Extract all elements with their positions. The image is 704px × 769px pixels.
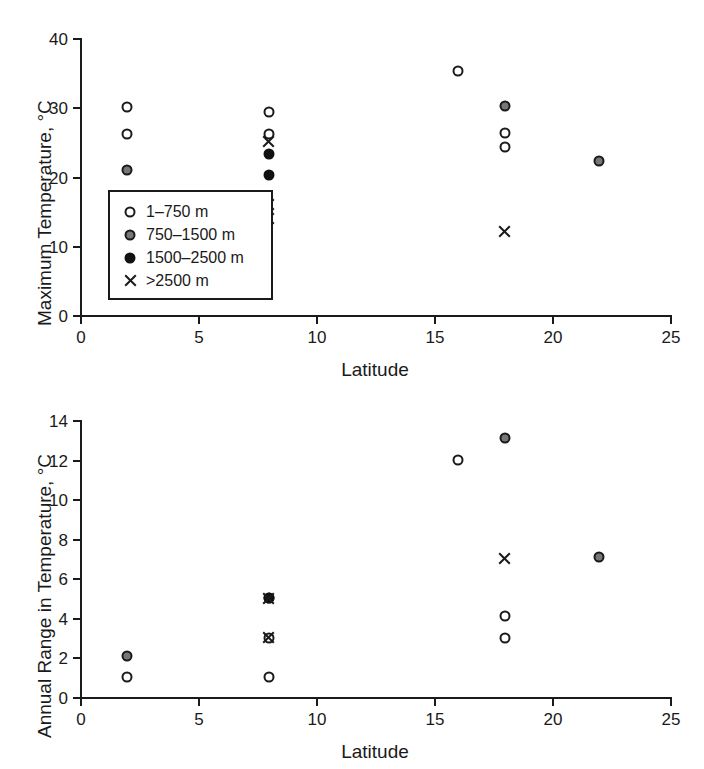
marker-open-circle: [263, 632, 274, 643]
marker-open-circle: [499, 127, 510, 138]
y-axis-tick: [73, 539, 80, 541]
y-axis-line: [80, 38, 82, 315]
x-axis-line: [80, 315, 672, 317]
legend-swatch: [120, 202, 140, 222]
x-axis-tick-label: 20: [544, 711, 563, 728]
y-axis-tick: [73, 107, 80, 109]
marker-gray-circle: [499, 100, 510, 111]
x-axis-tick: [316, 699, 318, 706]
y-axis-tick: [73, 315, 80, 317]
x-axis-tick: [80, 317, 82, 324]
x-axis-tick-label: 10: [308, 711, 327, 728]
y-axis-tick: [73, 657, 80, 659]
y-axis-tick-label: 14: [22, 413, 68, 430]
x-axis-tick-label: 5: [194, 711, 203, 728]
marker-open-circle: [452, 454, 463, 465]
x-axis-tick: [316, 317, 318, 324]
x-axis-tick: [198, 699, 200, 706]
y-axis-tick: [73, 578, 80, 580]
marker-cross: [262, 592, 275, 605]
marker-black-circle: [263, 170, 274, 181]
y-axis-tick: [73, 697, 80, 699]
legend-item-label: >2500 m: [146, 272, 209, 290]
marker-open-circle: [499, 610, 510, 621]
figure-scatter-plots: 0102030400510152025LatitudeMaximum Tempe…: [0, 0, 704, 769]
marker-black-circle: [125, 252, 136, 263]
legend: 1–750 m750–1500 m1500–2500 m>2500 m: [108, 190, 273, 300]
y-axis-line: [80, 420, 82, 697]
x-axis-tick-label: 0: [76, 329, 85, 346]
marker-open-circle: [122, 128, 133, 139]
x-axis-line: [80, 697, 672, 699]
marker-gray-circle: [125, 229, 136, 240]
y-axis-tick: [73, 499, 80, 501]
y-axis-tick-label: 40: [22, 31, 68, 48]
y-axis-tick: [73, 420, 80, 422]
marker-gray-circle: [594, 155, 605, 166]
marker-open-circle: [452, 65, 463, 76]
y-axis-tick: [73, 460, 80, 462]
marker-open-circle: [263, 128, 274, 139]
panel-maximum-temperature: 0102030400510152025LatitudeMaximum Tempe…: [0, 0, 704, 372]
marker-cross: [498, 552, 511, 565]
x-axis-tick: [670, 317, 672, 324]
x-axis-tick: [552, 699, 554, 706]
x-axis-tick-label: 25: [662, 329, 681, 346]
marker-gray-circle: [594, 551, 605, 562]
x-axis-tick-label: 0: [76, 711, 85, 728]
x-axis-tick: [198, 317, 200, 324]
y-axis-tick: [73, 618, 80, 620]
y-axis-tick: [73, 38, 80, 40]
plot-area-maximum-temperature: 0102030400510152025LatitudeMaximum Tempe…: [80, 38, 670, 315]
x-axis-tick-label: 15: [426, 329, 445, 346]
y-axis-title: Annual Range in Temperature, °C: [34, 454, 56, 738]
marker-open-circle: [263, 672, 274, 683]
y-axis-title: Maximum Temperature, °C: [34, 100, 56, 326]
x-axis-tick: [552, 317, 554, 324]
x-axis-tick: [434, 699, 436, 706]
marker-black-circle: [263, 149, 274, 160]
marker-cross: [262, 631, 275, 644]
plot-area-annual-range: 024681012140510152025LatitudeAnnual Rang…: [80, 420, 670, 697]
x-axis-tick: [80, 699, 82, 706]
marker-cross: [498, 225, 511, 238]
legend-item-label: 1500–2500 m: [146, 249, 244, 267]
marker-open-circle: [499, 142, 510, 153]
x-axis-tick: [670, 699, 672, 706]
legend-swatch: [120, 248, 140, 268]
x-axis-tick: [434, 317, 436, 324]
legend-item: >2500 m: [120, 269, 259, 292]
marker-gray-circle: [122, 651, 133, 662]
marker-open-circle: [122, 101, 133, 112]
marker-gray-circle: [499, 432, 510, 443]
marker-gray-circle: [122, 164, 133, 175]
legend-swatch: [120, 271, 140, 291]
legend-item: 1–750 m: [120, 200, 259, 223]
legend-item-label: 1–750 m: [146, 203, 208, 221]
marker-open-circle: [499, 632, 510, 643]
marker-cross: [262, 135, 275, 148]
x-axis-title: Latitude: [341, 741, 409, 763]
x-axis-tick-label: 25: [662, 711, 681, 728]
marker-open-circle: [122, 672, 133, 683]
legend-item: 750–1500 m: [120, 223, 259, 246]
x-axis-tick-label: 20: [544, 329, 563, 346]
legend-swatch: [120, 225, 140, 245]
legend-item: 1500–2500 m: [120, 246, 259, 269]
marker-cross: [124, 274, 137, 287]
y-axis-tick: [73, 246, 80, 248]
marker-open-circle: [263, 107, 274, 118]
panel-annual-range: 024681012140510152025LatitudeAnnual Rang…: [0, 372, 704, 769]
marker-open-circle: [125, 206, 136, 217]
x-axis-tick-label: 10: [308, 329, 327, 346]
legend-item-label: 750–1500 m: [146, 226, 235, 244]
marker-black-circle: [263, 593, 274, 604]
x-axis-tick-label: 15: [426, 711, 445, 728]
marker-open-circle: [263, 593, 274, 604]
y-axis-tick: [73, 177, 80, 179]
x-axis-tick-label: 5: [194, 329, 203, 346]
